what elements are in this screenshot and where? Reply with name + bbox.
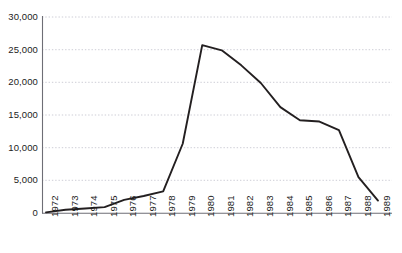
x-tick-label: 1984: [285, 195, 295, 217]
x-tick-label: 1974: [89, 195, 99, 217]
x-tick-label: 1985: [304, 195, 314, 217]
x-tick-label: 1980: [206, 195, 216, 217]
x-tick-label: 1976: [128, 195, 138, 217]
x-tick-label: 1973: [70, 195, 80, 217]
x-tick-label: 1982: [245, 195, 255, 217]
x-tick-label: 1988: [363, 195, 373, 217]
x-tick-label: 1986: [324, 195, 334, 217]
x-tick-label: 1977: [148, 195, 158, 217]
x-tick-label: 1983: [265, 195, 275, 217]
x-tick-label: 1987: [343, 195, 353, 217]
x-tick-label: 1981: [226, 195, 236, 217]
x-tick-label: 1989: [382, 195, 392, 217]
x-tick-label: 1978: [167, 195, 177, 217]
x-tick-label: 1979: [187, 195, 197, 217]
x-tick-label: 1972: [50, 195, 60, 217]
x-axis-tick-labels: 1972197319741975197619771978197919801981…: [0, 0, 402, 253]
line-chart: 30,000 25,000 20,000 15,000 10,000 5,000…: [0, 0, 402, 253]
x-tick-label: 1975: [109, 195, 119, 217]
